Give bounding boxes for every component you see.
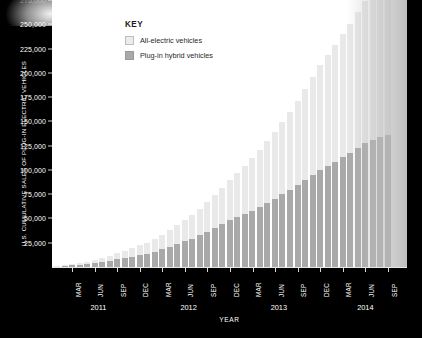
x-tick-label-month: DEC (323, 283, 330, 297)
bar-column (385, 0, 391, 267)
bar-segment-plug-in-hybrid (385, 135, 391, 267)
bar-segment-all-electric (219, 188, 225, 225)
bar-segment-plug-in-hybrid (204, 232, 210, 267)
bar-segment-all-electric (347, 24, 353, 153)
x-tick-label-month: MAR (75, 282, 82, 297)
bar-column (167, 230, 173, 267)
bar-segment-all-electric (137, 245, 143, 255)
bar-column (249, 158, 255, 267)
bar-segment-plug-in-hybrid (144, 254, 150, 267)
bar-segment-all-electric (377, 0, 383, 137)
x-tick-label-month: SEP (391, 284, 398, 298)
bar-column (92, 260, 98, 267)
bar-segment-plug-in-hybrid (242, 214, 248, 267)
y-tick-label: 150,000 (20, 118, 46, 125)
bar-segment-plug-in-hybrid (182, 241, 188, 267)
bar-column (242, 166, 248, 267)
bar-segment-plug-in-hybrid (272, 199, 278, 267)
bar-column (197, 209, 203, 267)
bar-segment-plug-in-hybrid (129, 257, 135, 267)
bar-segment-all-electric (182, 220, 188, 241)
bar-segment-plug-in-hybrid (295, 185, 301, 267)
bar-column (317, 65, 323, 267)
bar-column (370, 0, 376, 267)
bar-column (377, 0, 383, 267)
bar-segment-all-electric (159, 235, 165, 250)
bar-segment-all-electric (332, 45, 338, 162)
x-tick-mark (140, 268, 141, 272)
x-tick-mark (230, 268, 231, 272)
bar-column (362, 1, 368, 267)
bar-segment-all-electric (144, 243, 150, 254)
bar-segment-all-electric (287, 112, 293, 190)
bar-segment-all-electric (362, 1, 368, 143)
x-axis-year-label: 2012 (180, 303, 196, 312)
bar-segment-plug-in-hybrid (227, 220, 233, 267)
bar-segment-all-electric (197, 209, 203, 236)
bar-segment-plug-in-hybrid (212, 228, 218, 267)
x-axis-title: YEAR (52, 316, 407, 323)
bar-segment-plug-in-hybrid (174, 244, 180, 267)
bar-segment-plug-in-hybrid (317, 170, 323, 267)
x-tick-mark (162, 268, 163, 272)
x-tick-label-month: MAR (345, 282, 352, 297)
y-tick-label: 250,000 (20, 21, 46, 28)
bar-segment-all-electric (257, 150, 263, 207)
bar-segment-plug-in-hybrid (362, 143, 368, 267)
bar-segment-all-electric (204, 202, 210, 232)
bar-column (219, 188, 225, 267)
bar-segment-plug-in-hybrid (355, 148, 361, 267)
y-tick-label: 50,000 (24, 215, 46, 222)
x-axis-year-labels: 2011201220132014 (52, 303, 407, 315)
bar-segment-plug-in-hybrid (287, 190, 293, 267)
bar-segment-plug-in-hybrid (114, 259, 120, 267)
bar-segment-plug-in-hybrid (264, 203, 270, 267)
bar-segment-all-electric (302, 89, 308, 180)
y-tick-label: 175,000 (20, 94, 46, 101)
x-tick-label-month: JUN (368, 284, 375, 297)
x-axis-year-label: 2011 (90, 303, 106, 312)
bar-column (287, 112, 293, 267)
bar-column (325, 55, 331, 267)
bar-segment-all-electric (234, 173, 240, 217)
x-axis-year-label: 2014 (357, 303, 373, 312)
bar-column (114, 253, 120, 267)
bar-column (182, 220, 188, 267)
x-tick-mark (72, 268, 73, 272)
bar-column (152, 239, 158, 267)
bar-segment-all-electric (129, 248, 135, 256)
bar-column (355, 12, 361, 267)
bar-segment-plug-in-hybrid (152, 252, 158, 267)
bar-column (99, 258, 105, 267)
bar-segment-plug-in-hybrid (189, 239, 195, 267)
bar-column (144, 243, 150, 267)
bar-segment-all-electric (122, 251, 128, 258)
x-tick-label-month: JUN (97, 284, 104, 297)
x-tick-mark (185, 268, 186, 272)
bar-segment-plug-in-hybrid (167, 247, 173, 267)
bar-segment-all-electric (317, 65, 323, 170)
bar-segment-plug-in-hybrid (159, 249, 165, 267)
bar-segment-plug-in-hybrid (340, 157, 346, 267)
bar-segment-plug-in-hybrid (249, 211, 255, 268)
x-tick-label-month: SEP (120, 284, 127, 298)
x-tick-mark (253, 268, 254, 272)
legend-item-plug-in-hybrid: Plug-in hybrid vehicles (125, 51, 275, 60)
bar-column (129, 248, 135, 267)
bar-segment-plug-in-hybrid (137, 255, 143, 267)
bar-segment-all-electric (370, 0, 376, 140)
y-tick-label: 200,000 (20, 69, 46, 76)
x-axis-year-label: 2013 (271, 303, 287, 312)
bar-column (234, 173, 240, 267)
bar-column (279, 122, 285, 267)
y-tick-label: 125,000 (20, 142, 46, 149)
bar-segment-all-electric (227, 180, 233, 221)
legend: KEY All-electric vehicles Plug-in hybrid… (125, 20, 275, 66)
bar-segment-all-electric (385, 0, 391, 135)
legend-title: KEY (125, 20, 275, 29)
y-axis-ticks: 25,00050,00075,000100,000125,000150,0001… (0, 0, 52, 280)
y-tick-label: 25,000 (24, 239, 46, 246)
bar-segment-all-electric (249, 158, 255, 210)
bar-segment-all-electric (295, 101, 301, 185)
bar-segment-all-electric (174, 225, 180, 244)
